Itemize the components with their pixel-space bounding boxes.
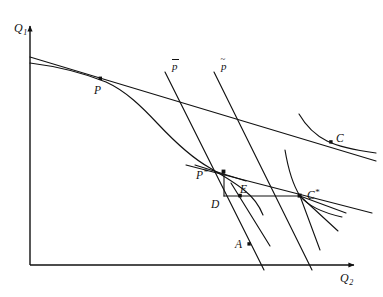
- diagram-canvas: [0, 0, 383, 297]
- price-ray-label-p-tilde: p ~: [221, 61, 227, 72]
- point-label-A-text: A: [235, 238, 242, 250]
- point-label-Cstar-text: C: [307, 189, 315, 201]
- point-label-D-text: D: [211, 198, 220, 210]
- point-label-C-text: C: [336, 132, 344, 144]
- point-label-P-text: P: [94, 84, 101, 96]
- y-axis-label-subscript: 1: [23, 28, 27, 37]
- tilde-accent: ~: [221, 55, 226, 64]
- world-price-budget-line: [30, 57, 376, 161]
- point-label-A: A: [235, 239, 242, 251]
- point-label-P: P: [94, 85, 101, 97]
- price-ray-p-tilde: [214, 72, 312, 270]
- point-marker-C: [329, 140, 332, 143]
- trade-diagram-figure: Q1 Q2 p p ~ P P* D E C* C A: [0, 0, 383, 297]
- x-axis-label-text: Q: [340, 271, 349, 285]
- price-ray-label-p-bar: p: [172, 61, 178, 72]
- x-axis-label-subscript: 2: [349, 278, 353, 287]
- point-marker-Pstar: [222, 170, 226, 174]
- point-label-Pstar-star: *: [204, 167, 209, 177]
- point-label-Pstar: P*: [196, 168, 208, 181]
- point-marker-Cstar: [298, 194, 302, 198]
- y-axis-label-text: Q: [14, 21, 23, 35]
- point-label-C: C: [336, 133, 344, 145]
- point-label-D: D: [211, 199, 220, 211]
- point-marker-P: [99, 77, 102, 80]
- overbar-accent: [172, 59, 179, 60]
- axes-group: [30, 26, 354, 265]
- indifference-curve-through-Cstar: [285, 150, 342, 217]
- production-possibility-frontier: [30, 63, 263, 215]
- point-marker-A: [247, 242, 250, 245]
- point-label-E: E: [240, 184, 247, 196]
- x-axis-label: Q2: [340, 272, 353, 287]
- point-label-E-text: E: [240, 183, 247, 195]
- point-label-Pstar-text: P: [196, 169, 203, 181]
- point-label-Cstar: C*: [307, 188, 320, 201]
- point-label-Cstar-star: *: [315, 187, 320, 197]
- y-axis-label: Q1: [14, 22, 27, 37]
- p-bar-letter: p: [172, 60, 178, 72]
- data-points: [99, 77, 333, 246]
